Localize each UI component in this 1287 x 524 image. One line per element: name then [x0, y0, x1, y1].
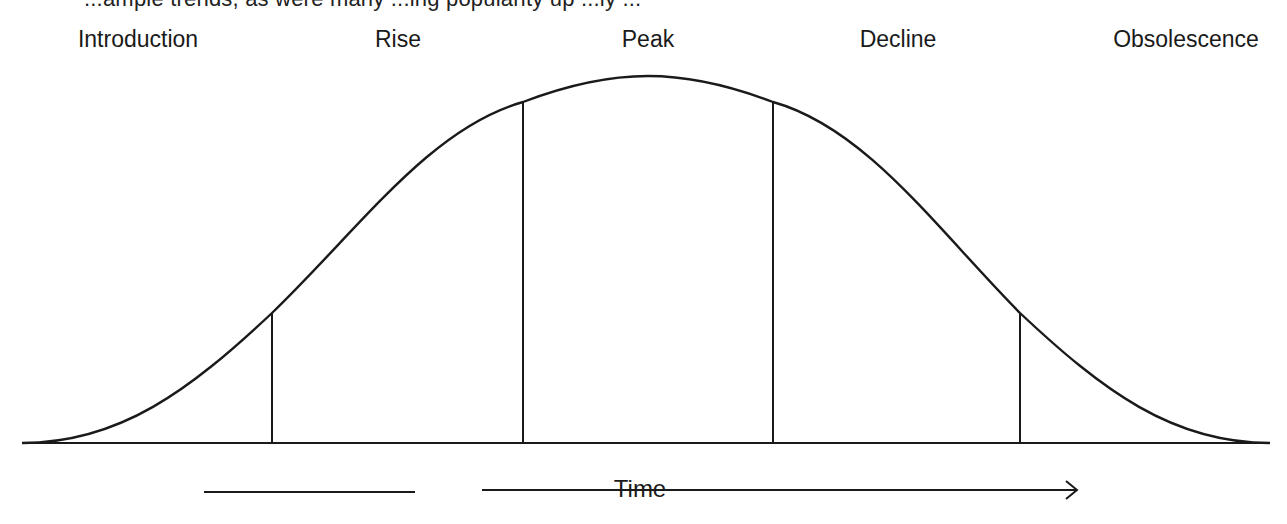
lifecycle-diagram: [0, 0, 1287, 524]
time-axis-label: Time: [614, 475, 666, 503]
bell-curve: [22, 76, 1270, 443]
